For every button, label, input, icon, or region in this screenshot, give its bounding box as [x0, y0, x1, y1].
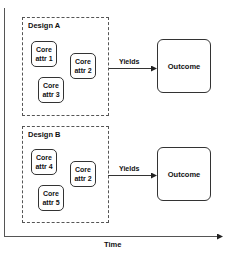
attr-line2: attr 1	[35, 54, 52, 63]
yields-label-a: Yields	[119, 58, 139, 65]
outcome-a-node: Outcome	[157, 39, 211, 93]
attr-line1: Core	[43, 189, 59, 198]
attr-line1: Core	[36, 153, 52, 162]
core-attr-2-node-a: Core attr 2	[70, 53, 96, 79]
time-axis-label: Time	[104, 240, 121, 249]
outcome-label: Outcome	[168, 62, 201, 71]
attr-line2: attr 5	[42, 198, 59, 207]
core-attr-1-node: Core attr 1	[31, 41, 57, 67]
core-attr-2-node-b: Core attr 2	[70, 161, 96, 187]
attr-line1: Core	[75, 165, 91, 174]
yields-label-b: Yields	[119, 165, 139, 172]
outcome-b-node: Outcome	[157, 147, 211, 201]
core-attr-4-node: Core attr 4	[31, 149, 57, 175]
attr-line2: attr 2	[74, 174, 91, 183]
attr-line1: Core	[43, 81, 59, 90]
design-b-title: Design B	[28, 130, 61, 139]
design-a-title: Design A	[28, 21, 60, 30]
attr-line2: attr 4	[35, 162, 52, 171]
outcome-label: Outcome	[168, 170, 201, 179]
core-attr-3-node: Core attr 3	[38, 77, 64, 103]
core-attr-5-node: Core attr 5	[38, 185, 64, 211]
attr-line2: attr 3	[42, 90, 59, 99]
attr-line1: Core	[75, 57, 91, 66]
attr-line2: attr 2	[74, 66, 91, 75]
attr-line1: Core	[36, 45, 52, 54]
